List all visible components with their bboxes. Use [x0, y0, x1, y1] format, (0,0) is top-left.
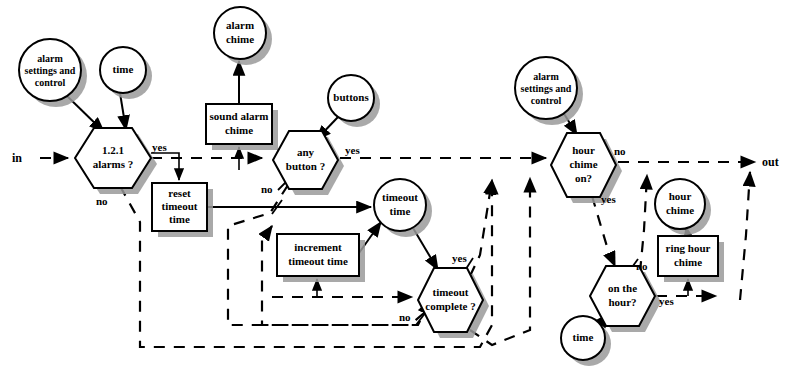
node-label-line: timeout time [288, 255, 348, 267]
node-label-line: settings and [521, 83, 572, 94]
out-label: out [762, 155, 779, 169]
node-label-line: button ? [286, 160, 325, 172]
edge-label-alarms-no: no [96, 195, 108, 207]
node-label-line: any [297, 146, 315, 158]
node-label-line: alarm [226, 19, 254, 31]
edge-label-anybutton-no: no [261, 183, 273, 195]
node-increment-timeout-time: increment timeout time [277, 234, 359, 276]
node-label-line: time [169, 213, 190, 225]
node-label-line: timeout [432, 286, 468, 298]
in-label: in [12, 151, 22, 165]
edge-label-alarms-yes: yes [152, 141, 167, 153]
node-label-line: chime [569, 158, 597, 170]
node-label-line: on the [608, 282, 637, 294]
node-label-line: control [35, 77, 66, 88]
edge-timeoutcomplete-yes-loop [470, 180, 492, 276]
node-alarm-chime: alarm chime [214, 7, 266, 59]
node-time-2: time [561, 316, 605, 360]
node-label-line: 1.2.1 [102, 144, 124, 156]
node-label-line: chime [225, 124, 253, 136]
node-label-line: on? [575, 172, 592, 184]
node-alarm-settings-control-1: alarm settings and control [19, 39, 81, 101]
node-label-line: timeout [161, 200, 197, 212]
node-label-line: control [531, 95, 562, 106]
flowchart-svg: alarm settings and control time alarm ch… [0, 0, 800, 376]
node-label-line: hour [669, 190, 692, 202]
node-timeout-time: timeout time [374, 179, 426, 231]
node-label-line: alarm [533, 71, 559, 82]
node-label-line: alarm [37, 53, 63, 64]
node-buttons: buttons [328, 75, 374, 121]
node-label-line: ring hour [666, 242, 711, 254]
node-label-line: sound alarm [210, 110, 269, 122]
diagram-canvas: alarm settings and control time alarm ch… [0, 0, 800, 376]
node-time-1: time [100, 47, 146, 93]
edge-hourchime-yes-to-onthehour [592, 196, 615, 266]
node-label-line: increment [294, 241, 342, 253]
node-label-line: time [390, 205, 411, 217]
edge-right-return-riser [740, 172, 750, 300]
edge-label-onthehour-no: no [636, 260, 648, 272]
edge-onthehour-no-loop [640, 175, 647, 272]
edge-label-timeout-no: no [399, 311, 411, 323]
node-label-line: reset [168, 187, 191, 199]
edge-label-hourchime-no: no [614, 145, 626, 157]
node-label-line: chime [226, 33, 254, 45]
node-label-line: hour? [608, 296, 636, 308]
edge-label-anybutton-yes: yes [345, 144, 360, 156]
edge-label-timeout-yes: yes [452, 252, 467, 264]
node-sound-alarm-chime: sound alarm chime [206, 104, 272, 144]
node-ring-hour-chime: ring hour chime [658, 236, 718, 276]
node-label-line: settings and [25, 65, 76, 76]
node-label-line: chime [674, 256, 702, 268]
edge-label-onthehour-yes: yes [659, 295, 674, 307]
node-hour-chime: hour chime [655, 179, 705, 229]
node-label-line: buttons [333, 91, 369, 103]
node-alarm-settings-control-2: alarm settings and control [515, 57, 577, 119]
node-label-line: timeout [382, 191, 418, 203]
node-label-line: complete ? [425, 300, 475, 312]
node-label-line: alarms ? [93, 158, 134, 170]
node-label-line: time [113, 63, 134, 75]
node-label-line: time [573, 331, 594, 343]
box-nodes: sound alarm chime reset timeout time inc… [152, 104, 718, 276]
node-label-line: chime [666, 204, 694, 216]
edge-label-hourchime-yes: yes [601, 193, 616, 205]
node-reset-timeout-time: reset timeout time [152, 183, 207, 231]
node-label-line: hour [572, 144, 595, 156]
